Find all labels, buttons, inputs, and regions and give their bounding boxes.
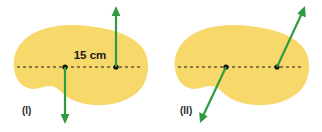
figure-canvas: 15 cm (I) (II)	[0, 0, 322, 132]
panel-label-two: (II)	[180, 105, 192, 116]
measurement-label-15cm: 15 cm	[74, 49, 107, 61]
figure-root: 15 cm (I) (II)	[0, 0, 322, 132]
panel-label-one: (I)	[22, 105, 31, 116]
